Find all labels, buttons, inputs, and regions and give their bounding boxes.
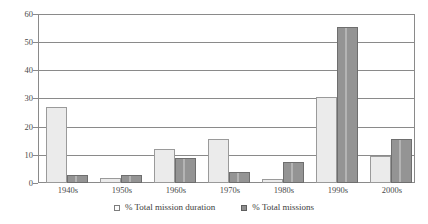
x-tick-label-1960s: 1960s (152, 186, 200, 195)
bar-1980s-duration (262, 179, 283, 183)
x-tick-label-2000s: 2000s (368, 186, 416, 195)
bar-2000s-duration (370, 156, 391, 183)
x-tick-label-1950s: 1950s (98, 186, 146, 195)
bar-group-1950s (98, 14, 146, 183)
bar-2000s-missions (391, 139, 412, 183)
dark-square-swatch-icon (241, 205, 247, 211)
legend-item-duration: % Total mission duration (114, 203, 215, 212)
bar-group-1940s (44, 14, 92, 183)
chart-legend: % Total mission duration % Total mission… (0, 203, 428, 212)
light-square-swatch-icon (114, 205, 120, 211)
bar-1980s-missions (283, 162, 304, 183)
legend-label-missions: % Total missions (252, 203, 314, 212)
y-tick-label-20: 20 (3, 123, 33, 132)
bar-1950s-missions (121, 175, 142, 183)
bar-1940s-duration (46, 107, 67, 183)
x-tick-label-1990s: 1990s (314, 186, 362, 195)
legend-item-missions: % Total missions (241, 203, 314, 212)
y-tick-label-30: 30 (3, 94, 33, 103)
bar-1940s-missions (67, 175, 88, 183)
y-tick-label-50: 50 (3, 38, 33, 47)
bar-group-2000s (368, 14, 416, 183)
x-tick-label-1940s: 1940s (44, 186, 92, 195)
y-tickmark-0 (33, 183, 38, 184)
x-tick-label-1980s: 1980s (260, 186, 308, 195)
bar-group-1980s (260, 14, 308, 183)
bar-1950s-duration (100, 178, 121, 183)
bars-layer (38, 14, 415, 183)
y-tick-label-40: 40 (3, 66, 33, 75)
y-tick-label-0: 0 (3, 179, 33, 188)
bar-1970s-duration (208, 139, 229, 183)
bar-group-1960s (152, 14, 200, 183)
y-tick-label-60: 60 (3, 10, 33, 19)
bar-1990s-duration (316, 97, 337, 183)
bar-group-1970s (206, 14, 254, 183)
bar-group-1990s (314, 14, 362, 183)
x-tick-label-1970s: 1970s (206, 186, 254, 195)
bar-1990s-missions (337, 27, 358, 183)
y-tick-label-10: 10 (3, 151, 33, 160)
bar-1960s-duration (154, 149, 175, 183)
bar-chart: 60 50 40 30 20 10 0 (0, 0, 428, 224)
x-axis: 1940s 1950s 1960s 1970s 1980s 1990s 2000… (38, 186, 415, 200)
legend-label-duration: % Total mission duration (125, 203, 215, 212)
y-axis: 60 50 40 30 20 10 0 (0, 0, 38, 224)
bar-1960s-missions (175, 158, 196, 183)
bar-1970s-missions (229, 172, 250, 183)
